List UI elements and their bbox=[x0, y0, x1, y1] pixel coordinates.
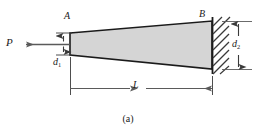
label-point-A: A bbox=[64, 11, 70, 21]
figure-caption: (a) bbox=[0, 113, 256, 124]
tapered-bar-body bbox=[70, 21, 212, 69]
label-depth-d2-subscript: 2 bbox=[237, 43, 240, 50]
figure-tapered-bar: P A B d1 d2 L (a) bbox=[0, 0, 256, 139]
label-depth-d1: d1 bbox=[53, 57, 61, 67]
label-depth-d1-subscript: 1 bbox=[58, 61, 61, 68]
label-length-L: L bbox=[133, 80, 139, 90]
label-force-P: P bbox=[6, 37, 13, 48]
wall-hatching bbox=[213, 17, 230, 74]
label-depth-d2: d2 bbox=[232, 39, 240, 49]
label-point-B: B bbox=[199, 9, 205, 19]
